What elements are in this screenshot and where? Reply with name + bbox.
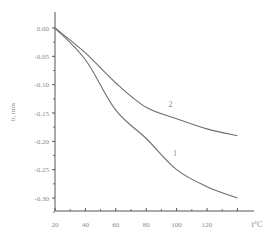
y-axis-label: h, mm xyxy=(9,103,17,121)
y-axis-ticks: 0.00-0.05-0.10-0.15-0.20-0.25-0.30 xyxy=(34,25,55,213)
y-tick-label: -0.10 xyxy=(34,81,49,89)
y-tick-label: -0.25 xyxy=(34,166,49,174)
x-tick-label: 40 xyxy=(82,221,90,229)
series-lines xyxy=(55,28,237,198)
y-tick-label: -0.20 xyxy=(34,138,49,146)
line-chart: 0.00-0.05-0.10-0.15-0.20-0.25-0.30 20406… xyxy=(0,0,273,243)
x-tick-label: 100 xyxy=(171,221,182,229)
series-line-2 xyxy=(55,28,237,136)
x-axis-label: t°C xyxy=(252,220,263,229)
x-tick-label: 20 xyxy=(52,221,60,229)
y-tick-label: -0.15 xyxy=(34,110,49,118)
x-tick-label: 120 xyxy=(202,221,213,229)
x-tick-label: 80 xyxy=(143,221,151,229)
y-tick-label: -0.05 xyxy=(34,53,49,61)
curve-labels: 12 xyxy=(169,100,178,157)
y-tick-label: -0.30 xyxy=(34,195,49,203)
y-tick-label: 0.00 xyxy=(37,25,50,33)
x-tick-label: 60 xyxy=(112,221,120,229)
curve-label-2: 2 xyxy=(169,100,173,109)
series-line-1 xyxy=(55,28,237,198)
curve-label-1: 1 xyxy=(173,149,177,158)
